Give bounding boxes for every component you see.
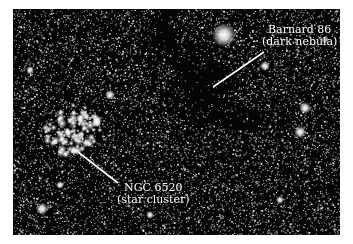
- ngc-6520-pointer-line: [78, 152, 118, 183]
- ngc-6520-type: (star cluster): [117, 194, 190, 206]
- barnard-86-label: Barnard 86 (dark nebula): [262, 24, 337, 48]
- ngc-6520-label: NGC 6520 (star cluster): [117, 182, 190, 206]
- barnard-86-type: (dark nebula): [262, 36, 337, 48]
- barnard-86-pointer-line: [213, 52, 264, 87]
